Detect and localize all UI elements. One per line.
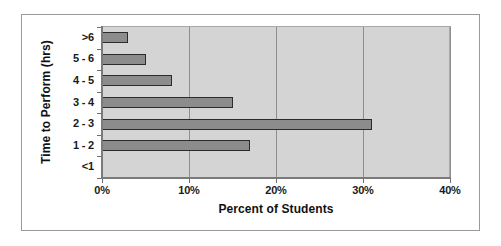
y-tick-label: <1 <box>46 160 94 172</box>
x-tick <box>276 179 277 183</box>
y-tick-label: >6 <box>46 31 94 43</box>
x-tick-label: 0% <box>80 184 124 196</box>
bar <box>102 32 128 43</box>
x-tick-label: 10% <box>167 184 211 196</box>
x-axis-line <box>101 177 451 179</box>
x-tick-label: 30% <box>341 184 385 196</box>
y-tick-label: 1 - 2 <box>46 139 94 151</box>
x-tick-label: 20% <box>254 184 298 196</box>
bar <box>102 75 172 86</box>
y-axis-line <box>101 26 103 179</box>
y-tick-label: 3 - 4 <box>46 96 94 108</box>
bar <box>102 119 372 130</box>
y-tick-label: 5 - 6 <box>46 52 94 64</box>
chart-figure: 0%10%20%30%40% >65 - 64 - 53 - 42 - 31 -… <box>0 0 501 246</box>
gridline-30pct <box>363 27 364 178</box>
x-tick-label: 40% <box>428 184 472 196</box>
x-tick <box>102 179 103 183</box>
x-tick <box>363 179 364 183</box>
y-axis-title: Time to Perform (hrs) <box>39 22 53 182</box>
x-tick <box>450 179 451 183</box>
y-tick-label: 2 - 3 <box>46 117 94 129</box>
bar <box>102 140 250 151</box>
bar <box>102 54 146 65</box>
y-tick-label: 4 - 5 <box>46 74 94 86</box>
bar <box>102 97 233 108</box>
gridline-20pct <box>276 27 277 178</box>
x-axis-title: Percent of Students <box>102 202 450 216</box>
gridline-40pct <box>450 27 451 178</box>
x-tick <box>189 179 190 183</box>
